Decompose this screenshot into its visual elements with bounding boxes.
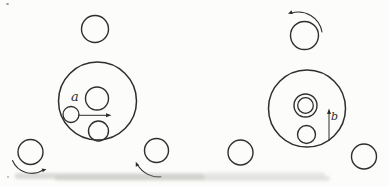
bottom-right-roller-circle: [145, 139, 169, 163]
arrowhead: [106, 113, 112, 117]
planet-bottom-circle: [298, 126, 316, 144]
label-a: a: [71, 90, 79, 103]
planet-left-circle: [63, 107, 79, 123]
bottom-left-roller-circle: [18, 140, 43, 165]
rotation-arrow-bottom-left: [13, 161, 44, 174]
bottom-left-roller-circle: [228, 140, 253, 165]
friction-gear-diagram-canvas: [0, 0, 389, 186]
label-b: b: [331, 111, 338, 122]
arrowhead: [287, 10, 293, 15]
top-roller-circle: [82, 16, 109, 43]
drive-disk-circle: [269, 70, 346, 147]
figure-page: a b: [0, 0, 389, 186]
top-roller-circle: [291, 22, 319, 50]
left-friction-drive: [13, 16, 169, 177]
rotation-arrow-bottom-right: [138, 165, 162, 177]
planet-mid-circle: [86, 87, 109, 110]
right-friction-drive: [228, 10, 377, 169]
bottom-right-roller-circle: [352, 144, 377, 169]
arrowhead: [42, 167, 47, 172]
planet-bottom-circle: [89, 121, 109, 141]
hub-inner-circle: [298, 98, 314, 114]
